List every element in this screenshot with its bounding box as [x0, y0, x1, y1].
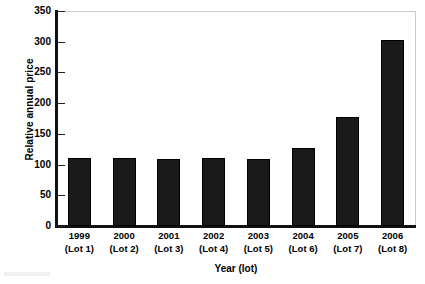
bar-slot: [157, 11, 180, 226]
category-year: 2006: [367, 230, 419, 243]
bars-layer: [57, 11, 415, 226]
y-tick-label-50: 50: [7, 189, 51, 200]
y-tick-0: [58, 226, 65, 227]
x-axis-category-labels: 1999(Lot 1)2000(Lot 2)2001(Lot 3)2002(Lo…: [57, 230, 415, 264]
bar-slot: [336, 11, 359, 226]
category-label-2006: 2006(Lot 8): [367, 230, 419, 255]
bar-slot: [247, 11, 270, 226]
bar-slot: [113, 11, 136, 226]
bar-slot: [68, 11, 91, 226]
y-tick-label-150: 150: [7, 128, 51, 139]
bar-2006: [381, 40, 404, 226]
bar-slot: [381, 11, 404, 226]
bar-2004: [292, 148, 315, 226]
x-axis-title: Year (lot): [56, 263, 416, 274]
y-tick-label-100: 100: [7, 159, 51, 170]
scan-artifact: [4, 272, 50, 276]
y-tick-label-200: 200: [7, 97, 51, 108]
y-tick-label-300: 300: [7, 36, 51, 47]
bar-2002: [202, 158, 225, 226]
bar-2003: [247, 159, 270, 226]
bar-slot: [292, 11, 315, 226]
bar-slot: [202, 11, 225, 226]
bar-2005: [336, 117, 359, 226]
y-tick-label-0: 0: [7, 220, 51, 231]
y-tick-label-350: 350: [7, 5, 51, 16]
category-lot: (Lot 8): [367, 243, 419, 256]
y-tick-label-250: 250: [7, 66, 51, 77]
bar-1999: [68, 158, 91, 226]
bar-2001: [157, 159, 180, 226]
bar-2000: [113, 158, 136, 226]
bar-chart: Relative annual price 050100150200250300…: [0, 0, 425, 284]
